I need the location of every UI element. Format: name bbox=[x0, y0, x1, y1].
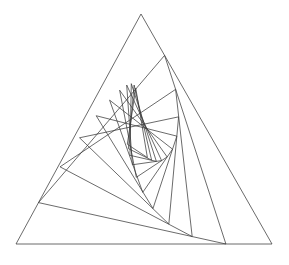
triangle-2 bbox=[60, 89, 192, 236]
triangle-1 bbox=[39, 55, 226, 244]
triangle-spiral-diagram bbox=[0, 0, 289, 265]
triangle-layer bbox=[16, 14, 272, 244]
triangle-4 bbox=[96, 116, 177, 209]
figure-canvas bbox=[0, 0, 289, 265]
